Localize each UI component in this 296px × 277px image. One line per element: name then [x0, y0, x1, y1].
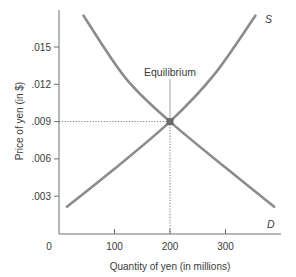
y-tick-label: .009 — [32, 116, 52, 127]
equilibrium-marker — [167, 118, 174, 125]
y-tick-label: .006 — [32, 153, 52, 164]
x-tick-label: 200 — [162, 241, 179, 252]
demand-curve — [83, 15, 275, 208]
x-tick-label: 0 — [46, 241, 52, 252]
supply-demand-chart: .003.006.009.012.015 0100200300 Equilibr… — [0, 0, 296, 277]
equilibrium-label: Equilibrium — [144, 66, 196, 78]
x-tick-label: 300 — [217, 241, 234, 252]
y-axis-label: Price of yen (in $) — [14, 82, 25, 160]
supply-curve — [66, 15, 256, 208]
x-axis-label: Quantity of yen (in millions) — [110, 261, 231, 272]
x-ticks: 0100200300 — [46, 229, 234, 252]
demand-label: D — [267, 218, 275, 230]
supply-label: S — [265, 13, 272, 25]
y-ticks: .003.006.009.012.015 — [32, 42, 59, 202]
x-tick-label: 100 — [106, 241, 123, 252]
y-tick-label: .003 — [32, 191, 52, 202]
y-tick-label: .012 — [32, 79, 52, 90]
y-tick-label: .015 — [32, 42, 52, 53]
